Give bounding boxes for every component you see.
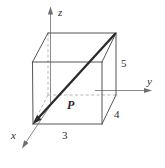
x-axis-arrowhead — [22, 140, 29, 148]
y-axis-arrowhead — [144, 88, 152, 93]
axis-label-z: z — [58, 7, 62, 18]
axes-group — [22, 7, 152, 149]
diagram-canvas — [0, 0, 165, 168]
z-axis-arrowhead — [48, 7, 53, 15]
vector-label-p: P — [67, 99, 75, 111]
edge-top-left — [33, 33, 49, 62]
edge-front-left-vertical — [33, 62, 34, 124]
dimension-label-4: 4 — [114, 109, 120, 120]
dimension-label-5: 5 — [121, 58, 127, 69]
axis-label-y: y — [147, 76, 152, 87]
dimension-label-3: 3 — [62, 130, 68, 141]
axis-label-x: x — [11, 130, 16, 141]
vector-diagram-figure: z y x P 3 4 5 — [0, 0, 165, 168]
